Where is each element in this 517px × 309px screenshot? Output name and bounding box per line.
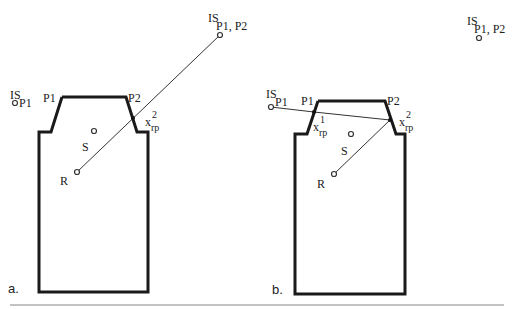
panel-caption-a: a. xyxy=(8,281,19,296)
panel-a: P1 P2 S R IS P1 IS P1, P2 x 2 rp a. xyxy=(8,11,247,296)
label-is-p1p2-sub-a: P1, P2 xyxy=(216,19,247,33)
room-outline-b xyxy=(295,101,405,294)
room-outline-a xyxy=(39,97,148,292)
label-is-p1-sub-a: P1 xyxy=(19,96,32,110)
receiver-point-b xyxy=(332,172,337,177)
label-xrp2-sup-a: 2 xyxy=(152,109,157,120)
label-xrp2-sub-b: rp xyxy=(405,122,413,133)
label-is-p1p2-sub-b: P1, P2 xyxy=(474,22,505,36)
label-is-p1-sub-b: P1 xyxy=(275,95,288,109)
label-s-b: S xyxy=(341,144,348,158)
image-source-p1-point-b xyxy=(269,105,274,110)
panel-caption-b: b. xyxy=(272,282,283,297)
source-point-b xyxy=(349,132,354,137)
label-p2-b: P2 xyxy=(387,94,400,108)
label-xrp2-sub-a: rp xyxy=(151,122,159,133)
receiver-point-a xyxy=(75,170,80,175)
reflection-point-2-a xyxy=(131,116,135,120)
image-source-diagram: P1 P2 S R IS P1 IS P1, P2 x 2 rp a. P1 P… xyxy=(0,0,517,309)
label-xrp1-sup-b: 1 xyxy=(320,114,325,125)
label-r-b: R xyxy=(317,177,325,191)
label-xrp2-sup-b: 2 xyxy=(406,109,411,120)
label-xrp1-sub-b: rp xyxy=(319,127,327,138)
panel-b: P1 P2 S R IS P1 IS P1, P2 x 1 rp x 2 rp … xyxy=(266,14,505,297)
label-s-a: S xyxy=(82,140,89,154)
reflection-point-1-b xyxy=(312,110,316,114)
image-source-p1p2-point-a xyxy=(218,33,223,38)
label-p2-a: P2 xyxy=(128,91,141,105)
label-r-a: R xyxy=(60,174,68,188)
label-p1-a: P1 xyxy=(43,91,56,105)
ray-path-b xyxy=(271,107,390,174)
source-point-a xyxy=(92,129,97,134)
label-p1-b: P1 xyxy=(301,94,314,108)
reflection-point-2-b xyxy=(388,118,392,122)
image-source-p1p2-point-b xyxy=(477,36,482,41)
